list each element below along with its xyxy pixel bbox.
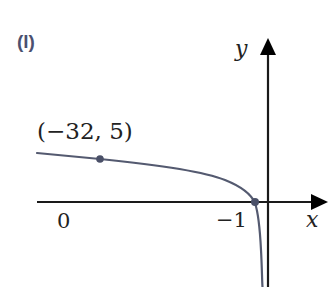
marked-point-label: (−32, 5)	[37, 118, 133, 144]
x-tick-label-neg1: −1	[216, 208, 247, 232]
y-axis-label: y	[235, 36, 247, 61]
x-axis	[37, 194, 328, 210]
x-tick-label-0: 0	[57, 209, 70, 233]
x-intercept-point	[251, 198, 259, 206]
y-axis-arrow-icon	[260, 38, 276, 55]
y-axis	[260, 38, 276, 287]
x-axis-label: x	[306, 207, 318, 232]
graph-figure: (l) (−32, 5) 0 −1 x y	[0, 0, 328, 287]
marked-point-neg32-5	[96, 155, 104, 163]
